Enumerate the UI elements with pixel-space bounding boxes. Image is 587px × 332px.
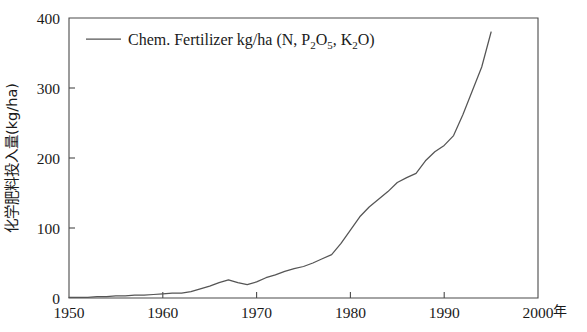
legend-entry-label: Chem. Fertilizer kg/ha (N, P2O5, K2O)	[128, 31, 375, 51]
y-axis-ticks	[69, 88, 75, 228]
y-tick-label: 200	[37, 150, 61, 167]
y-tick-label: 300	[37, 80, 61, 97]
x-axis-ticks	[163, 292, 444, 298]
plot-frame	[69, 18, 538, 298]
x-tick-label: 1980	[335, 304, 366, 321]
legend: Chem. Fertilizer kg/ha (N, P2O5, K2O)	[86, 31, 375, 51]
y-axis-title: 化学肥料投入量(kg/ha)	[4, 83, 20, 233]
data-line-chem-fertilizer	[69, 32, 491, 297]
legend-text-part: O)	[358, 31, 375, 49]
x-axis-tick-labels: 195019601970198019902000	[54, 304, 554, 321]
legend-text-part: Chem. Fertilizer kg/ha (N, P	[128, 31, 310, 49]
y-axis-tick-labels: 0100200300400	[37, 10, 61, 307]
x-tick-label: 1960	[147, 304, 178, 321]
y-tick-label: 400	[37, 10, 61, 27]
y-tick-label: 100	[37, 220, 61, 237]
x-axis-unit-label: 年	[553, 303, 567, 319]
legend-text-part: O	[316, 31, 328, 48]
x-tick-label: 2000	[523, 304, 554, 321]
chart-figure: 0100200300400 195019601970198019902000 化…	[0, 0, 587, 332]
x-tick-label: 1970	[241, 304, 272, 321]
data-series-group	[69, 32, 491, 297]
x-tick-label: 1950	[54, 304, 85, 321]
legend-text-part: , K	[333, 31, 353, 48]
x-tick-label: 1990	[429, 304, 460, 321]
